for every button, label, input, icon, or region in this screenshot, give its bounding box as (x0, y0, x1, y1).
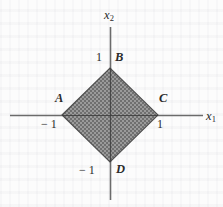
vertex-label-a: A (55, 92, 63, 105)
vertex-label-d: D (116, 163, 125, 176)
y-axis-label-subscript: 2 (110, 13, 114, 23)
tick-label-x-negative-one: − 1 (41, 118, 57, 130)
y-axis-label-base: x (104, 8, 110, 22)
coordinate-plot (0, 0, 223, 207)
vertex-label-b: B (115, 51, 123, 64)
tick-label-y-negative-one: − 1 (79, 164, 95, 176)
tick-label-y-positive-one: 1 (96, 51, 102, 63)
x-axis-label-subscript: 1 (212, 114, 216, 124)
x-axis-label: x1 (206, 110, 216, 124)
vertex-label-c: C (159, 92, 167, 105)
y-axis-label: x2 (104, 9, 114, 23)
tick-label-x-positive-one: 1 (157, 118, 163, 130)
figure-container: x2 x1 1 B A − 1 C 1 − 1 D (0, 0, 223, 207)
x-axis-label-base: x (206, 109, 212, 123)
